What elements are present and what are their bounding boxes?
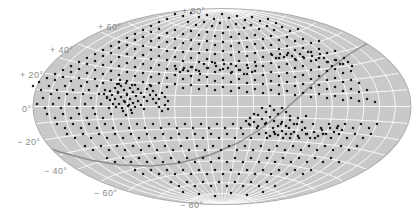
source-marker bbox=[214, 169, 216, 171]
source-marker bbox=[110, 61, 112, 63]
source-marker bbox=[292, 145, 294, 147]
source-marker bbox=[342, 90, 344, 92]
source-marker bbox=[134, 84, 136, 86]
source-marker bbox=[126, 44, 128, 46]
source-marker bbox=[278, 57, 280, 59]
source-marker bbox=[227, 67, 229, 69]
source-marker bbox=[254, 34, 256, 36]
source-marker bbox=[150, 169, 152, 171]
source-marker bbox=[288, 127, 290, 129]
source-marker bbox=[128, 127, 130, 129]
source-marker bbox=[117, 92, 119, 94]
source-marker bbox=[126, 71, 128, 73]
source-marker bbox=[278, 93, 280, 95]
source-marker bbox=[110, 52, 112, 54]
source-marker bbox=[121, 107, 123, 109]
source-marker bbox=[195, 24, 197, 26]
source-marker bbox=[135, 95, 137, 97]
source-marker bbox=[232, 123, 234, 125]
source-marker bbox=[96, 85, 98, 87]
source-marker bbox=[198, 70, 200, 72]
source-marker bbox=[262, 83, 264, 85]
source-marker bbox=[266, 25, 268, 27]
source-marker bbox=[280, 123, 282, 125]
source-marker bbox=[290, 161, 292, 163]
source-marker bbox=[246, 194, 248, 196]
source-marker bbox=[211, 25, 213, 27]
source-marker bbox=[160, 127, 162, 129]
source-marker bbox=[174, 56, 176, 58]
source-marker bbox=[258, 133, 260, 135]
source-marker bbox=[322, 133, 324, 135]
source-marker bbox=[202, 137, 204, 139]
source-marker bbox=[129, 98, 131, 100]
source-marker bbox=[102, 82, 104, 84]
source-marker bbox=[118, 74, 120, 76]
source-marker bbox=[155, 102, 157, 104]
source-marker bbox=[158, 173, 160, 175]
source-marker bbox=[116, 83, 118, 85]
source-marker bbox=[143, 108, 145, 110]
source-marker bbox=[230, 81, 232, 83]
source-marker bbox=[62, 76, 64, 78]
source-marker bbox=[354, 133, 356, 135]
source-marker bbox=[142, 36, 144, 38]
source-marker bbox=[100, 103, 102, 105]
source-marker bbox=[266, 181, 268, 183]
source-marker bbox=[174, 173, 176, 175]
source-marker bbox=[222, 32, 224, 34]
source-marker bbox=[112, 127, 114, 129]
source-marker bbox=[132, 145, 134, 147]
source-marker bbox=[304, 127, 306, 129]
source-marker bbox=[138, 157, 140, 159]
source-marker bbox=[224, 127, 226, 129]
source-marker bbox=[230, 169, 232, 171]
source-marker bbox=[230, 54, 232, 56]
source-marker bbox=[158, 28, 160, 30]
source-marker bbox=[250, 181, 252, 183]
source-marker bbox=[126, 37, 128, 39]
source-marker bbox=[111, 94, 113, 96]
source-marker bbox=[240, 127, 242, 129]
source-marker bbox=[90, 137, 92, 139]
source-marker bbox=[64, 127, 66, 129]
source-marker bbox=[158, 106, 160, 108]
source-marker bbox=[366, 89, 368, 91]
source-marker bbox=[238, 87, 240, 89]
source-marker bbox=[102, 117, 104, 119]
source-marker bbox=[297, 28, 299, 30]
source-marker bbox=[311, 55, 313, 57]
source-marker bbox=[68, 103, 70, 105]
source-marker bbox=[128, 104, 130, 106]
source-marker bbox=[231, 71, 233, 73]
source-marker bbox=[118, 103, 120, 105]
source-marker bbox=[198, 79, 200, 81]
source-marker bbox=[278, 48, 280, 50]
source-marker bbox=[302, 65, 304, 67]
source-marker bbox=[82, 93, 84, 95]
source-marker bbox=[286, 173, 288, 175]
source-marker bbox=[212, 145, 214, 147]
source-marker bbox=[214, 53, 216, 55]
source-marker bbox=[206, 40, 208, 42]
source-marker bbox=[257, 114, 259, 116]
source-marker bbox=[262, 47, 264, 49]
source-marker bbox=[60, 107, 62, 109]
source-marker bbox=[166, 41, 168, 43]
source-marker bbox=[327, 61, 329, 63]
source-marker bbox=[126, 94, 128, 96]
declination-tick-label: + 80° bbox=[182, 7, 205, 16]
source-marker bbox=[337, 125, 339, 127]
source-marker bbox=[236, 149, 238, 151]
source-marker bbox=[243, 73, 245, 75]
source-marker bbox=[42, 97, 44, 99]
source-marker bbox=[134, 39, 136, 41]
source-marker bbox=[108, 107, 110, 109]
source-marker bbox=[162, 133, 164, 135]
source-marker bbox=[265, 122, 267, 124]
source-marker bbox=[289, 30, 291, 32]
source-marker bbox=[270, 35, 272, 37]
source-marker bbox=[172, 149, 174, 151]
source-marker bbox=[352, 127, 354, 129]
source-marker bbox=[338, 133, 340, 135]
